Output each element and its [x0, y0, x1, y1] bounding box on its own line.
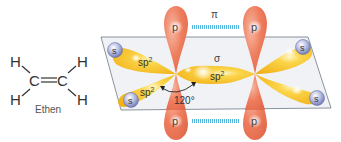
atom-h-bottom-right: H — [77, 91, 88, 108]
atom-h-top-left: H — [10, 53, 21, 70]
atom-h-top-right: H — [77, 53, 88, 70]
label-pi: π — [211, 9, 218, 20]
highlight — [184, 67, 192, 73]
pi-bond-upper — [191, 25, 240, 29]
highlight — [284, 47, 296, 57]
atom-c-right: C — [57, 72, 68, 89]
label-angle: 120° — [174, 95, 195, 106]
bond-single — [68, 66, 76, 73]
bond-single — [22, 66, 30, 73]
label-s: s — [314, 94, 319, 104]
label-p-upper-left: p — [172, 21, 178, 33]
highlight — [291, 85, 303, 95]
atom-h-bottom-left: H — [10, 91, 21, 108]
orbital-diagram: p p p p π s s s s sp2 sp2 sp2 σ 120° — [101, 6, 331, 140]
pi-bond-lower — [191, 119, 240, 123]
label-s: s — [300, 43, 305, 53]
label-sigma: σ — [214, 53, 221, 64]
label-p-lower-right: p — [251, 115, 257, 127]
label-p-upper-right: p — [251, 21, 257, 33]
atom-c-left: C — [29, 72, 40, 89]
structural-formula: H H C C H H Ethen — [10, 53, 88, 115]
label-s: s — [128, 96, 133, 106]
label-s: s — [112, 46, 117, 56]
bond-single — [22, 89, 30, 96]
label-p-lower-left: p — [172, 115, 178, 127]
molecule-name: Ethen — [35, 104, 61, 115]
bond-single — [68, 89, 76, 96]
